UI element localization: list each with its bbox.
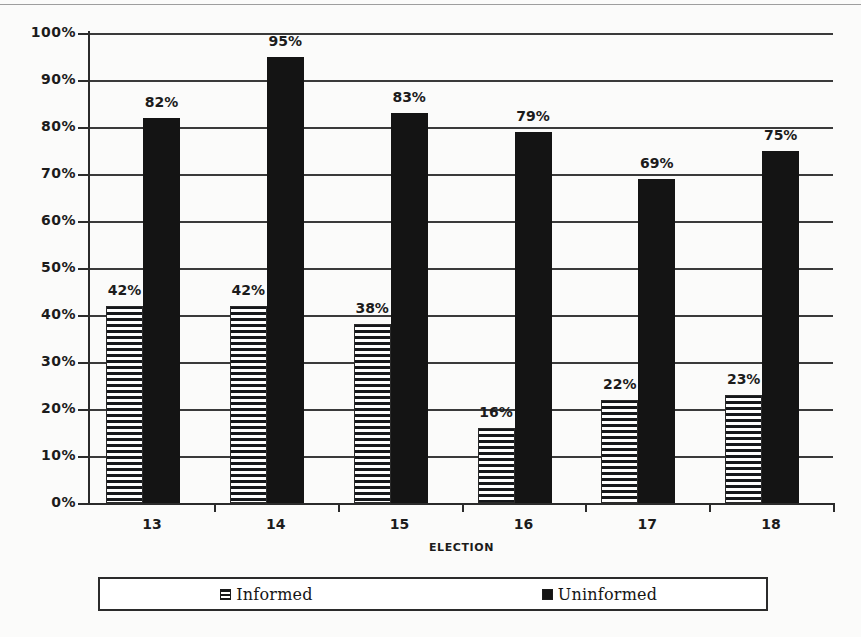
page-scan-edge	[0, 4, 861, 5]
y-tick-label: 50%	[2, 259, 76, 275]
legend-item-uninformed: Uninformed	[433, 585, 766, 604]
x-axis-title: ELECTION	[90, 541, 833, 554]
y-tick-mark	[78, 456, 90, 458]
x-tick-mark	[338, 503, 340, 512]
chart-legend: Informed Uninformed	[98, 577, 768, 611]
bar-informed	[725, 395, 762, 503]
solid-swatch-icon	[542, 589, 553, 600]
bar-value-label-uninformed: 69%	[622, 155, 692, 171]
bar-value-label-uninformed: 83%	[374, 89, 444, 105]
bar-value-label-uninformed: 95%	[250, 33, 320, 49]
y-tick-label: 20%	[2, 400, 76, 416]
gridline	[90, 174, 833, 176]
y-tick-mark	[78, 315, 90, 317]
y-tick-label: 80%	[2, 118, 76, 134]
legend-label-uninformed: Uninformed	[558, 585, 657, 604]
bar-informed	[354, 324, 391, 503]
bar-informed	[601, 400, 638, 503]
gridline	[90, 221, 833, 223]
bar-uninformed	[143, 118, 180, 503]
y-tick-mark	[78, 33, 90, 35]
bar-value-label-uninformed: 82%	[127, 94, 197, 110]
bar-informed	[478, 428, 515, 503]
y-tick-label: 30%	[2, 353, 76, 369]
gridline	[90, 315, 833, 317]
x-tick-label: 18	[709, 516, 833, 532]
bar-value-label-uninformed: 75%	[746, 127, 816, 143]
y-tick-mark	[78, 409, 90, 411]
y-tick-mark	[78, 80, 90, 82]
y-tick-label: 60%	[2, 212, 76, 228]
y-tick-label: 0%	[2, 494, 76, 510]
x-tick-label: 15	[338, 516, 462, 532]
x-tick-label: 16	[461, 516, 585, 532]
gridline	[90, 456, 833, 458]
x-tick-label: 17	[585, 516, 709, 532]
plot-area: 42%82%42%95%38%83%16%79%22%69%23%75%	[90, 33, 833, 503]
bar-informed	[106, 306, 143, 503]
y-tick-label: 40%	[2, 306, 76, 322]
y-tick-mark	[78, 503, 90, 505]
x-tick-label: 14	[214, 516, 338, 532]
bar-uninformed	[515, 132, 552, 503]
y-tick-label: 70%	[2, 165, 76, 181]
gridline	[90, 362, 833, 364]
y-tick-label: 10%	[2, 447, 76, 463]
gridline	[90, 268, 833, 270]
gridline	[90, 80, 833, 82]
y-tick-mark	[78, 174, 90, 176]
legend-item-informed: Informed	[100, 585, 433, 604]
bar-value-label-uninformed: 79%	[498, 108, 568, 124]
bar-uninformed	[391, 113, 428, 503]
bar-uninformed	[762, 151, 799, 504]
x-tick-mark	[214, 503, 216, 512]
chart-page: 0%10%20%30%40%50%60%70%80%90%100% 42%82%…	[0, 0, 861, 637]
x-tick-mark	[833, 503, 835, 512]
y-tick-label: 100%	[2, 24, 76, 40]
y-tick-mark	[78, 362, 90, 364]
x-tick-label: 13	[90, 516, 214, 532]
y-tick-mark	[78, 127, 90, 129]
gridline	[90, 127, 833, 129]
y-axis-labels: 0%10%20%30%40%50%60%70%80%90%100%	[0, 33, 76, 503]
x-tick-mark	[462, 503, 464, 512]
hatched-swatch-icon	[220, 589, 231, 600]
y-tick-label: 90%	[2, 71, 76, 87]
bar-uninformed	[638, 179, 675, 503]
y-tick-mark	[78, 268, 90, 270]
bar-uninformed	[267, 57, 304, 504]
gridline	[90, 33, 833, 35]
legend-label-informed: Informed	[236, 585, 312, 604]
bar-informed	[230, 306, 267, 503]
x-tick-mark	[585, 503, 587, 512]
y-tick-mark	[78, 221, 90, 223]
x-tick-mark	[709, 503, 711, 512]
